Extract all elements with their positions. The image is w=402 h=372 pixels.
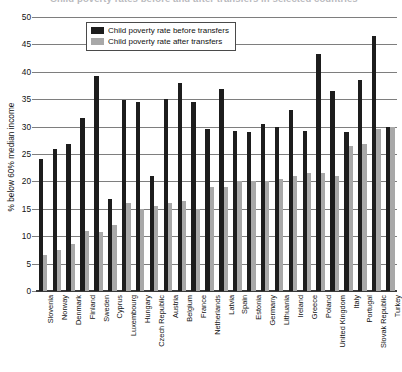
plot-area: 05101520253035404550 (36, 17, 397, 291)
chart-legend: Child poverty rate before transfers Chil… (86, 22, 236, 51)
bar-group (314, 17, 328, 291)
legend-item-after: Child poverty rate after transfers (91, 36, 229, 47)
bar-group (369, 17, 383, 291)
bar-after (182, 201, 186, 291)
bar-after (279, 179, 283, 291)
bar-group (203, 17, 217, 291)
bar-after (251, 181, 255, 291)
bar-group (133, 17, 147, 291)
bar-after (321, 173, 325, 291)
bar-after (237, 181, 241, 291)
bar-group (78, 17, 92, 291)
y-axis-tick-label: 30 (22, 122, 31, 132)
y-axis-tick-label: 10 (22, 231, 31, 241)
x-axis-tick-label: Hungary (133, 294, 147, 372)
x-axis-tick-label: France (189, 294, 203, 372)
x-axis-tick-label: Sweden (92, 294, 106, 372)
y-axis-tick-label: 45 (22, 39, 31, 49)
y-axis-tick-label: 35 (22, 94, 31, 104)
x-axis-tick-label: Estonia (244, 294, 258, 372)
x-axis-tick-label: Portugal (355, 294, 369, 372)
bar-group (342, 17, 356, 291)
bar-after (112, 225, 116, 291)
bar-group (300, 17, 314, 291)
bar-group (36, 17, 50, 291)
bar-group (189, 17, 203, 291)
x-axis-tick-label: Denmark (64, 294, 78, 372)
bar-group (161, 17, 175, 291)
bar-after (210, 187, 214, 291)
bar-group (175, 17, 189, 291)
bar-after (265, 181, 269, 291)
bar-group (258, 17, 272, 291)
legend-item-before: Child poverty rate before transfers (91, 25, 229, 36)
bar-after (224, 187, 228, 291)
y-axis-tick-label: 20 (22, 176, 31, 186)
x-axis-tick-label: Germany (258, 294, 272, 372)
bar-group (64, 17, 78, 291)
x-axis-tick-label: Czech Republic (147, 294, 161, 372)
bar-group (355, 17, 369, 291)
bar-group (50, 17, 64, 291)
legend-label-before: Child poverty rate before transfers (108, 26, 229, 35)
bar-after (126, 203, 130, 291)
x-axis-tick-label-text: Turkey (393, 295, 402, 317)
bar-group (105, 17, 119, 291)
bar-after (349, 146, 353, 291)
bar-group (92, 17, 106, 291)
bar-after (307, 173, 311, 291)
y-axis-tickmark (32, 291, 36, 292)
bar-series-group (36, 17, 397, 291)
bar-after (293, 176, 297, 291)
bar-group (286, 17, 300, 291)
y-axis-tick-label: 25 (22, 149, 31, 159)
bar-group (147, 17, 161, 291)
x-axis-tick-label: Spain (230, 294, 244, 372)
bar-group (272, 17, 286, 291)
bar-group (217, 17, 231, 291)
legend-swatch-before-icon (91, 27, 104, 34)
gridline (36, 291, 397, 292)
bar-group (383, 17, 397, 291)
x-axis-tick-label: Greece (300, 294, 314, 372)
y-axis-tick-label: 40 (22, 67, 31, 77)
legend-swatch-after-icon (91, 38, 104, 45)
x-axis-tick-label: United Kingdom (328, 294, 342, 372)
x-axis-tick-label: Poland (314, 294, 328, 372)
legend-label-after: Child poverty rate after transfers (108, 37, 222, 46)
y-axis-tick-label: 5 (26, 259, 31, 269)
bar-group (328, 17, 342, 291)
bar-after (390, 127, 394, 291)
bar-after (376, 129, 380, 291)
bar-group (230, 17, 244, 291)
x-axis-tick-label: Norway (50, 294, 64, 372)
x-axis-tick-labels: SloveniaNorwayDenmarkFinlandSwedenCyprus… (36, 294, 397, 372)
y-axis-tick-label: 0 (26, 286, 31, 296)
x-axis-tick-label: Austria (161, 294, 175, 372)
x-axis-tick-label: Finland (78, 294, 92, 372)
bar-after (154, 206, 158, 291)
x-axis-tick-label: Latvia (217, 294, 231, 372)
bar-after (362, 144, 366, 291)
y-axis-tick-label: 15 (22, 204, 31, 214)
bar-after (71, 244, 75, 291)
x-axis-tick-label: Luxembourg (119, 294, 133, 372)
bar-after (85, 231, 89, 291)
y-axis-tick-label: 50 (22, 12, 31, 22)
x-axis-tick-label: Ireland (286, 294, 300, 372)
bar-after (140, 209, 144, 291)
x-axis-tick-label: Cyprus (105, 294, 119, 372)
y-axis-label: % below 60% median income (6, 62, 16, 252)
bar-after (57, 250, 61, 291)
chart-title: Child poverty rates before and after tra… (50, 0, 358, 4)
chart-title-strip: Child poverty rates before and after tra… (0, 0, 399, 9)
x-axis-tick-label: Italy (342, 294, 356, 372)
x-axis-tick-label: Belgium (175, 294, 189, 372)
bar-group (119, 17, 133, 291)
x-axis-tick-label: Netherlands (203, 294, 217, 372)
bar-after (168, 203, 172, 291)
x-axis-tick-label: Slovenia (36, 294, 50, 372)
x-axis-tick-label: Slovak Republic (369, 294, 383, 372)
x-axis-tick-label: Turkey (383, 294, 397, 372)
